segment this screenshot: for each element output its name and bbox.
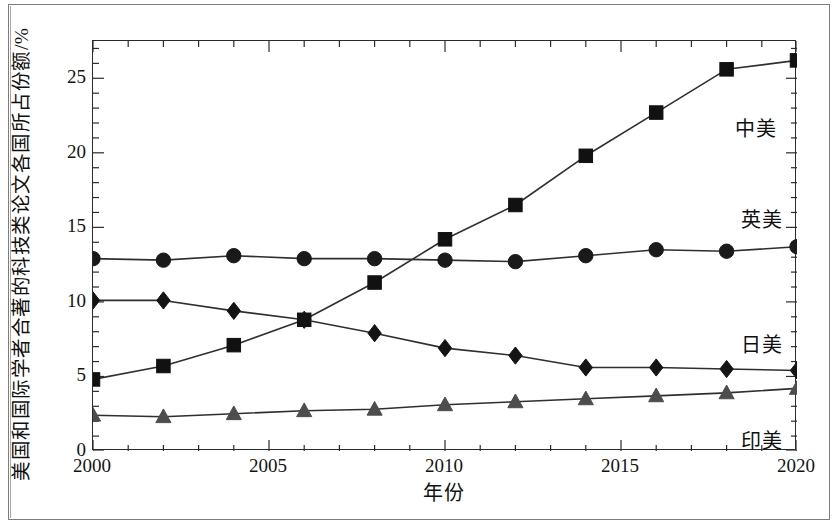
y-tick-label: 25 [52, 67, 86, 86]
marker-circle [438, 253, 452, 267]
marker-circle [579, 248, 593, 262]
marker-square [157, 359, 171, 373]
marker-diamond [227, 302, 240, 319]
x-axis-title: 年份 [92, 482, 796, 504]
series-label-印美: 印美 [741, 430, 783, 452]
x-tick-label: 2005 [223, 456, 313, 476]
marker-square [438, 233, 452, 247]
series-印美 [93, 381, 797, 423]
marker-circle [156, 253, 170, 267]
marker-circle [790, 240, 797, 254]
marker-square [790, 54, 797, 68]
y-tick-label: 20 [52, 142, 86, 161]
marker-triangle [297, 403, 312, 417]
figure-container: 美国和国际学者合著的科技类论文各国所占份额/% 0510152025 20002… [0, 0, 838, 528]
marker-square [93, 373, 100, 387]
x-tick-label: 2020 [751, 456, 838, 476]
marker-diamond [509, 347, 522, 364]
series-line [93, 60, 797, 379]
marker-square [509, 198, 523, 212]
plot-svg [93, 41, 797, 451]
marker-square [649, 106, 663, 120]
marker-square [720, 63, 734, 77]
marker-diamond [438, 340, 451, 357]
series-中美 [93, 54, 797, 387]
marker-diamond [157, 292, 170, 309]
marker-diamond [720, 360, 733, 377]
y-tick-label: 10 [52, 291, 86, 310]
marker-diamond [368, 325, 381, 342]
x-tick-label: 2015 [575, 456, 665, 476]
y-axis-title: 美国和国际学者合著的科技类论文各国所占份额/% [11, 4, 33, 504]
marker-diamond [93, 292, 100, 309]
marker-circle [367, 251, 381, 265]
marker-square [579, 149, 593, 163]
y-tick-label: 5 [52, 365, 86, 384]
series-label-中美: 中美 [735, 118, 777, 140]
marker-triangle [93, 407, 101, 421]
marker-circle [719, 244, 733, 258]
x-tick-label: 2010 [399, 456, 489, 476]
marker-diamond [649, 359, 662, 376]
series-label-英美: 英美 [741, 209, 783, 231]
marker-square [368, 276, 382, 290]
y-tick-label: 15 [52, 216, 86, 235]
x-tick-label: 2000 [47, 456, 137, 476]
marker-diamond [579, 359, 592, 376]
marker-circle [227, 248, 241, 262]
marker-triangle [789, 381, 797, 395]
plot-area [92, 40, 796, 450]
marker-circle [508, 254, 522, 268]
marker-circle [93, 251, 100, 265]
series-line [93, 300, 797, 370]
marker-square [227, 338, 241, 352]
series-日美 [93, 292, 797, 379]
marker-circle [297, 251, 311, 265]
series-label-日美: 日美 [741, 334, 783, 356]
y-axis-tick-labels: 0510152025 [44, 0, 86, 528]
marker-circle [649, 243, 663, 257]
